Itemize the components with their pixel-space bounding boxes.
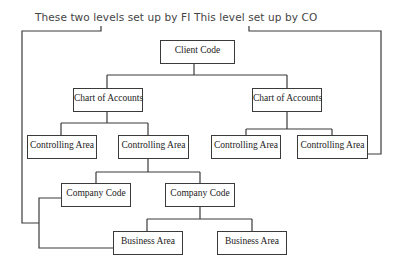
client-code-node: Client Code [160, 40, 235, 64]
business-area-node-1: Business Area [113, 231, 183, 255]
controlling-area-node-2: Controlling Area [118, 135, 189, 159]
company-code-node-2: Company Code [165, 183, 235, 207]
business-area-node-2: Business Area [217, 231, 287, 255]
org-structure-diagram: These two levels set up by FI This level… [0, 0, 401, 267]
chart-of-accounts-node-left: Chart of Accounts [73, 88, 143, 112]
controlling-area-node-4: Controlling Area [297, 135, 368, 159]
controlling-area-node-3: Controlling Area [211, 135, 281, 159]
chart-of-accounts-node-right: Chart of Accounts [252, 88, 322, 112]
company-code-node-1: Company Code [61, 183, 131, 207]
co-annotation-label: This level set up by CO [194, 11, 317, 23]
controlling-area-node-1: Controlling Area [27, 135, 97, 159]
fi-annotation-label: These two levels set up by FI [35, 11, 190, 23]
